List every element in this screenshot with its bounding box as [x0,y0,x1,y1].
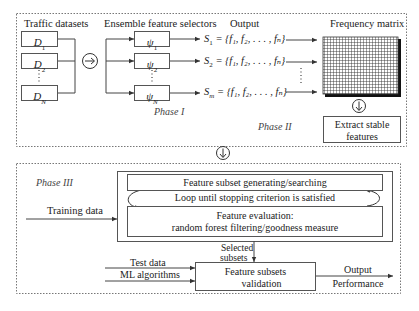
circle-arrow-down-icon-between [217,147,230,160]
selector-box-2: ψ2 [134,53,170,69]
extract-stable-features-box: Extract stable features [323,116,401,143]
evaluation-line-1: Feature evaluation: [128,210,382,222]
dataset-symbol: D [34,58,42,70]
ensemble-selectors-label: Ensemble feature selectors [104,19,217,30]
loop-label: Loop until stopping criterion is satisfi… [127,193,383,203]
ml-algorithms-label: ML algorithms [120,270,180,280]
output-set-2: S2 = {f₁, f₂, . . . , fₙ} [204,56,285,69]
output-set-members: = {f₁, f₂, . . . , fₙ} [213,33,286,44]
selector-symbol: ψ [147,58,154,70]
selector-box-n: ψN [134,85,170,101]
output-label: Output [230,19,259,30]
selector-subscript: N [153,98,158,106]
output-set-m: Sm = {f₁, f₂, . . . , fₙ} [204,87,287,100]
training-data-label: Training data [47,206,103,217]
dataset-symbol: D [33,90,41,102]
phase-1-label: Phase I [154,107,184,117]
phase-2-label: Phase II [258,122,292,132]
dataset-box-n: DN [21,85,58,101]
dataset-subscript: 2 [42,66,46,74]
selected-subsets-label: Selected subsets [220,243,253,263]
test-data-label: Test data [130,258,166,268]
selector-symbol: ψ [147,36,154,48]
selector-box-1: ψ1 [134,31,170,47]
performance-label: Performance [330,279,386,289]
circle-arrow-down-icon [353,100,366,113]
dataset-box-1: D1 [21,31,58,47]
selector-subscript: 2 [154,66,158,74]
extract-line-1: Extract stable [324,119,400,131]
output-set-1: S1 = {f₁, f₂, . . . , fₙ} [204,34,285,47]
frequency-matrix-label: Frequency matrix [330,19,404,30]
validation-line-1: Feature subsets [196,266,315,278]
output-label-bottom: Output [330,265,386,275]
output-set-members: = {f₁, f₂, . . . , fₙ} [214,86,287,97]
frequency-matrix-grid [323,37,401,97]
dataset-box-2: D2 [21,53,58,69]
selected-line-1: Selected [220,243,253,253]
traffic-datasets-label: Traffic datasets [24,19,88,30]
evaluation-line-2: random forest filtering/goodness measure [128,222,382,234]
feature-subsets-validation-box: Feature subsets validation [195,262,316,291]
validation-line-2: validation [196,278,315,290]
output-set-members: = {f₁, f₂, . . . , fₙ} [213,55,286,66]
dataset-subscript: N [41,98,46,106]
extract-line-2: features [324,131,400,143]
feature-evaluation-box: Feature evaluation: random forest filter… [127,206,383,237]
phase-3-label: Phase III [36,178,73,188]
dataset-subscript: 1 [42,44,46,52]
feature-subset-generating-box: Feature subset generating/searching [127,174,383,191]
dataset-symbol: D [34,36,42,48]
selector-subscript: 1 [154,44,158,52]
circle-arrow-right-icon [83,54,98,69]
